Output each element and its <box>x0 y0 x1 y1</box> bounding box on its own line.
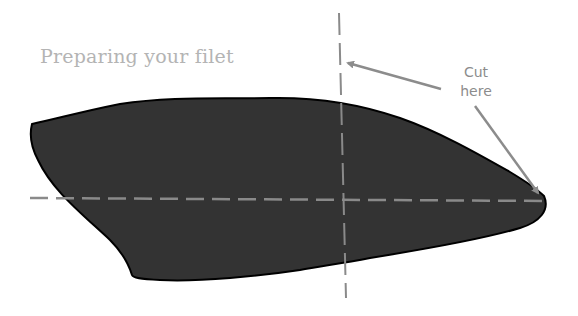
cut-here-annotation: Cut here <box>453 63 499 101</box>
diagram-title: Preparing your filet <box>40 45 234 67</box>
annotation-line-1: Cut <box>453 63 499 82</box>
arrow-to-vertical-cut <box>348 63 441 89</box>
annotation-line-2: here <box>453 82 499 101</box>
filet-shape <box>31 98 546 280</box>
